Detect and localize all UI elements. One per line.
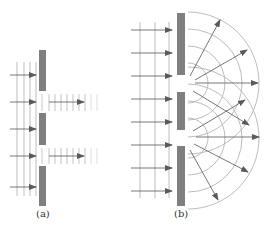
barrier-segment xyxy=(39,113,46,145)
diffracted-ray-arrow xyxy=(190,20,220,76)
diffraction-figure xyxy=(0,0,276,235)
barrier-segment xyxy=(177,92,185,130)
diagram-a-plane-wave-slits xyxy=(10,50,97,206)
barrier-segment xyxy=(177,13,185,75)
circular-wavefront-arc xyxy=(188,67,259,209)
panel-a-label: (a) xyxy=(36,208,50,219)
diffracted-wavefronts xyxy=(188,12,259,209)
diagram-b-diffraction-slits xyxy=(131,12,259,209)
diffracted-ray-arrow xyxy=(194,144,248,172)
circular-wavefront-arc xyxy=(188,101,225,175)
panel-b-label: (b) xyxy=(174,208,188,219)
barrier-segment xyxy=(39,166,46,206)
barrier-segment xyxy=(39,50,46,91)
barrier-segment xyxy=(177,146,185,206)
circular-wavefront-arc xyxy=(188,84,242,192)
